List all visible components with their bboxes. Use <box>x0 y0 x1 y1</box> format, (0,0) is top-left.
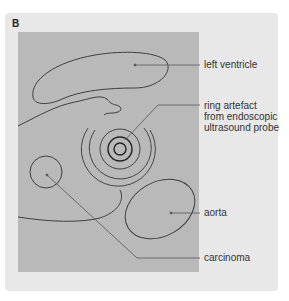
label-carcinoma: carcinoma <box>204 252 250 263</box>
label-aorta: aorta <box>204 207 227 218</box>
label-ring-artefact-line3: ultrasound probe <box>204 122 279 133</box>
label-left-ventricle: left ventricle <box>204 59 257 70</box>
label-ring-artefact-line1: ring artefact <box>204 100 257 111</box>
label-ring-artefact-line2: from endoscopic <box>204 111 277 122</box>
